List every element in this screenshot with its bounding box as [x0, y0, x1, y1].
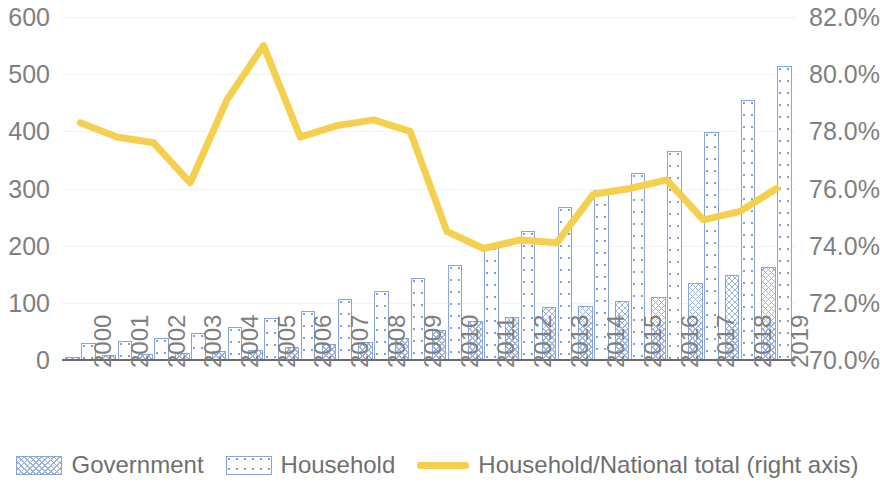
y-axis-right-tick: 76.0% [809, 176, 880, 201]
x-axis-tick-2017: 2017 [714, 315, 738, 368]
y-axis-left-tick: 300 [8, 176, 50, 201]
x-axis-tick-2006: 2006 [311, 315, 335, 368]
x-axis-tick-2003: 2003 [201, 315, 225, 368]
x-axis-tick-2002: 2002 [165, 315, 189, 368]
x-axis-tick-2018: 2018 [751, 315, 775, 368]
y-axis-right-tick: 80.0% [809, 62, 880, 87]
x-axis-tick-2010: 2010 [458, 315, 482, 368]
y-axis-left-tick: 100 [8, 290, 50, 315]
y-axis-right-tick: 82.0% [809, 5, 880, 30]
x-axis-labels: 2000200120022003200420052006200720082009… [62, 360, 795, 440]
x-axis-tick-2014: 2014 [604, 315, 628, 368]
y-axis-right-tick: 70.0% [809, 348, 880, 373]
line-swatch-icon [417, 462, 469, 469]
plot-area: 0100200300400500600 70.0%72.0%74.0%76.0%… [62, 17, 795, 360]
household-swatch-icon [226, 456, 272, 475]
x-axis-tick-2013: 2013 [568, 315, 592, 368]
government-swatch-icon [16, 456, 62, 475]
legend-label-household: Household [281, 453, 396, 477]
legend-label-government: Government [71, 453, 203, 477]
household-ratio-line[interactable] [80, 46, 776, 249]
chart-legend: Government Household Household/National … [0, 448, 875, 482]
y-axis-left-tick: 200 [8, 233, 50, 258]
x-axis-tick-2012: 2012 [531, 315, 555, 368]
y-axis-left-tick: 500 [8, 62, 50, 87]
y-axis-left-tick: 600 [8, 5, 50, 30]
x-axis-tick-2009: 2009 [421, 315, 445, 368]
x-axis-tick-2000: 2000 [91, 315, 115, 368]
legend-item-household[interactable]: Household [226, 453, 396, 477]
x-axis-tick-2005: 2005 [275, 315, 299, 368]
x-axis-tick-2007: 2007 [348, 315, 372, 368]
y-axis-left-tick: 0 [36, 348, 50, 373]
x-axis-tick-2004: 2004 [238, 315, 262, 368]
y-axis-right-tick: 74.0% [809, 233, 880, 258]
legend-item-household-ratio[interactable]: Household/National total (right axis) [417, 453, 858, 477]
y-axis-right-tick: 72.0% [809, 290, 880, 315]
legend-label-household-ratio: Household/National total (right axis) [478, 453, 858, 477]
x-axis-tick-2008: 2008 [385, 315, 409, 368]
x-axis-tick-2019: 2019 [788, 315, 812, 368]
x-axis-tick-2011: 2011 [494, 316, 518, 368]
x-axis-tick-2001: 2001 [128, 315, 152, 368]
x-axis-tick-2015: 2015 [641, 315, 665, 368]
y-axis-right-tick: 78.0% [809, 119, 880, 144]
legend-item-government[interactable]: Government [16, 453, 203, 477]
line-series-household-ratio [62, 17, 795, 360]
y-axis-left-tick: 400 [8, 119, 50, 144]
x-axis-tick-2016: 2016 [678, 315, 702, 368]
